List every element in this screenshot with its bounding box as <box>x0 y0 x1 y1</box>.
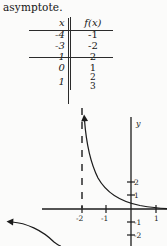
table-row: -3 -2 <box>29 40 113 51</box>
x-tick-label--1: -1 <box>101 214 108 223</box>
fraction: 2 3 <box>90 73 96 90</box>
x-tick-label--2: -2 <box>76 214 84 223</box>
x-tick-label-1: 1 <box>154 214 159 223</box>
graph-svg: y -2 -1 1 2 1 -1 -2 <box>0 104 167 246</box>
y-tick-label-2: 2 <box>134 178 139 187</box>
y-tick-label--1: -1 <box>134 218 141 227</box>
cell-x: -3 <box>29 40 70 51</box>
y-axis-label: y <box>135 119 141 128</box>
function-value-table: x f(x) -4 -1 -3 -2 -1 2 0 1 1 2 3 <box>29 17 113 90</box>
table-column-divider <box>68 18 69 104</box>
cell-x: 1 <box>29 73 70 90</box>
table-header-row: x f(x) <box>29 17 113 29</box>
fraction-denominator: 3 <box>90 82 96 91</box>
table-row: -4 -1 <box>29 29 113 40</box>
y-tick-label--2: -2 <box>134 231 142 240</box>
cell-x: -4 <box>29 29 70 40</box>
rational-function-graph: y -2 -1 1 2 1 -1 -2 <box>0 104 167 246</box>
table-row: 1 2 3 <box>29 73 113 90</box>
cell-x: 0 <box>29 62 70 73</box>
table-rule-top <box>29 30 113 31</box>
cell-fx-fraction: 2 3 <box>70 73 113 90</box>
table-rule-middle <box>29 57 113 58</box>
y-tick-label-1: 1 <box>134 191 139 200</box>
lower-left-branch <box>12 222 61 246</box>
cell-fx: -1 <box>70 29 113 40</box>
table-header-fx: f(x) <box>70 17 113 29</box>
table-row: 0 1 <box>29 62 113 73</box>
cell-fx: -2 <box>70 40 113 51</box>
upper-right-branch <box>85 120 168 209</box>
asymptote-caption: asymptote. <box>3 1 63 13</box>
table-header-x: x <box>29 17 70 29</box>
